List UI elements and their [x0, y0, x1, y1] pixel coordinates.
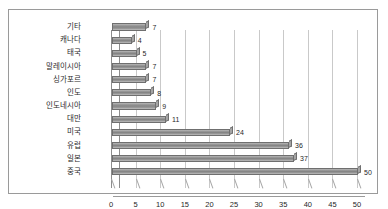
bar: [112, 168, 358, 175]
x-tick-label: 10: [150, 200, 170, 209]
bar-value-label: 8: [157, 89, 161, 98]
x-tick-label: 30: [249, 200, 269, 209]
bar-value-label: 50: [364, 168, 372, 177]
bar-depth-cap: [166, 113, 169, 122]
x-tick-label: 45: [322, 200, 342, 209]
bar-depth-cap: [289, 139, 292, 148]
bar-depth-cap: [146, 21, 149, 30]
bar-depth-cap: [358, 165, 361, 174]
bar: [112, 63, 146, 70]
x-tick-label: 40: [298, 200, 318, 209]
bar-depth-cap: [151, 86, 154, 95]
bar-depth-cap: [132, 34, 135, 43]
chart-plot-area: 기타7캐나다4태국5말레이시아7싱가포르7인도8인도네시아9대만11미국24유럽…: [9, 10, 377, 193]
bar-depth-cap: [230, 126, 233, 135]
bar-value-label: 24: [236, 128, 244, 137]
category-label: 중국: [0, 166, 81, 178]
category-label: 인도: [0, 87, 81, 99]
bar-row: 인도8: [9, 87, 377, 99]
bar-row: 태국5: [9, 47, 377, 59]
x-tick-label: 0: [101, 200, 121, 209]
bar: [112, 76, 146, 83]
bar: [112, 155, 294, 162]
category-label: 인도네시아: [0, 100, 81, 112]
bar-depth-cap: [146, 73, 149, 82]
bar-row: 유럽36: [9, 140, 377, 152]
category-label: 말레이시아: [0, 61, 81, 73]
value-axis-line: [113, 196, 365, 197]
bar-value-label: 5: [143, 49, 147, 58]
bar-value-label: 11: [172, 115, 179, 124]
bar-row: 인도네시아9: [9, 100, 377, 112]
bar: [112, 129, 230, 136]
x-tick-label: 50: [347, 200, 367, 209]
bar-value-label: 36: [295, 141, 303, 150]
bar-row: 중국50: [9, 166, 377, 178]
bar-row: 싱가포르7: [9, 74, 377, 86]
bar-value-label: 37: [300, 154, 308, 163]
bar-row: 말레이시아7: [9, 61, 377, 73]
category-label: 싱가포르: [0, 74, 81, 86]
category-label: 캐나다: [0, 34, 81, 46]
bar-value-label: 4: [138, 36, 142, 45]
bar-value-label: 9: [162, 102, 166, 111]
bar: [112, 23, 146, 30]
x-tick-label: 5: [126, 200, 146, 209]
bar-depth-cap: [156, 100, 159, 109]
bar: [112, 116, 166, 123]
category-label: 기타: [0, 21, 81, 33]
bar-value-label: 7: [152, 75, 156, 84]
category-label: 일본: [0, 153, 81, 165]
category-label: 유럽: [0, 140, 81, 152]
bar: [112, 102, 156, 109]
bar-row: 캐나다4: [9, 34, 377, 46]
x-tick-label: 25: [224, 200, 244, 209]
bar-value-label: 7: [152, 23, 156, 32]
category-label: 대만: [0, 113, 81, 125]
bar: [112, 37, 132, 44]
bar-row: 미국24: [9, 126, 377, 138]
bar: [112, 142, 289, 149]
bar-depth-cap: [294, 152, 297, 161]
x-tick-label: 15: [175, 200, 195, 209]
x-tick-label: 35: [273, 200, 293, 209]
category-label: 미국: [0, 126, 81, 138]
bar: [112, 89, 151, 96]
bar-depth-cap: [137, 47, 140, 56]
bar: [112, 50, 137, 57]
bar-depth-cap: [146, 60, 149, 69]
figure-frame: 기타7캐나다4태국5말레이시아7싱가포르7인도8인도네시아9대만11미국24유럽…: [8, 9, 378, 194]
x-tick-label: 20: [199, 200, 219, 209]
category-label: 태국: [0, 47, 81, 59]
bar-row: 일본37: [9, 153, 377, 165]
bar-row: 대만11: [9, 113, 377, 125]
bar-row: 기타7: [9, 21, 377, 33]
bar-value-label: 7: [152, 62, 156, 71]
